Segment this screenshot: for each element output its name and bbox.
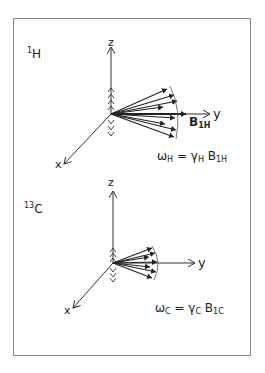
y-axis-label: y	[198, 256, 206, 269]
proton-fan-arc	[170, 86, 178, 139]
x-axis-label: x	[55, 159, 62, 170]
z-axis-label: z	[108, 177, 114, 188]
x-axis	[64, 114, 111, 164]
x-axis	[73, 263, 113, 308]
carbon-nucleus-label: 13C	[24, 202, 43, 215]
carbon-nutation-equation: ωC = γC B1C	[155, 302, 224, 316]
proton-nucleus-label: 1H	[27, 47, 41, 60]
z-axis-label: z	[108, 37, 114, 48]
carbon-panel-axes	[73, 191, 195, 308]
x-axis-label: x	[64, 305, 71, 316]
proton-panel-axes	[64, 47, 210, 164]
y-axis-label: y	[213, 107, 221, 120]
b1h-field-label: B1H	[189, 116, 210, 130]
proton-nutation-equation: ωH = γH B1H	[157, 150, 227, 164]
proton-magnetization-fan	[111, 89, 186, 137]
